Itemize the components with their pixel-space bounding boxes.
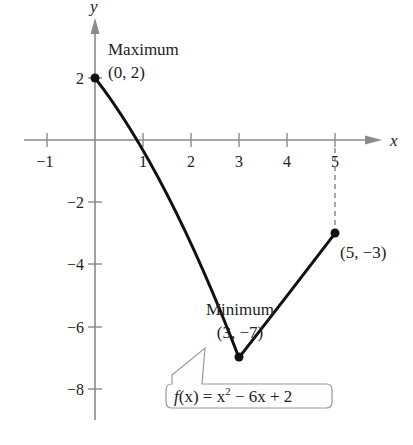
function-label: f(x) = x2 − 6x + 2: [174, 385, 292, 406]
svg-text:−6: −6: [67, 319, 84, 336]
x-axis-label: x: [389, 131, 398, 150]
svg-text:2: 2: [187, 153, 195, 170]
x-tick-labels: −1 1 2 3 4 5: [36, 153, 339, 170]
end-point-marker: [331, 229, 340, 238]
function-callout: f(x) = x2 − 6x + 2: [166, 348, 332, 408]
min-point-label: (3, −7): [217, 323, 263, 342]
end-point-label: (5, −3): [340, 243, 386, 262]
max-point-label: (0, 2): [108, 63, 145, 82]
y-axis-arrow-icon: [91, 18, 100, 34]
max-title: Maximum: [108, 40, 179, 59]
svg-text:−2: −2: [67, 194, 84, 211]
svg-text:−8: −8: [67, 381, 84, 398]
y-tick-labels: 2 −2 −4 −6 −8: [67, 70, 84, 398]
y-axis-label: y: [88, 0, 98, 16]
x-axis-arrow-icon: [365, 136, 382, 145]
svg-text:−4: −4: [67, 256, 84, 273]
min-title: Minimum: [206, 300, 274, 319]
chart: x y −1 1 2 3 4 5 2 −2 −4 −6 −8 Maximum (…: [0, 0, 413, 445]
svg-text:2: 2: [76, 70, 84, 87]
svg-text:−1: −1: [36, 153, 53, 170]
svg-text:4: 4: [283, 153, 291, 170]
svg-text:3: 3: [235, 153, 243, 170]
min-point-marker: [235, 353, 244, 362]
max-point-marker: [91, 74, 100, 83]
